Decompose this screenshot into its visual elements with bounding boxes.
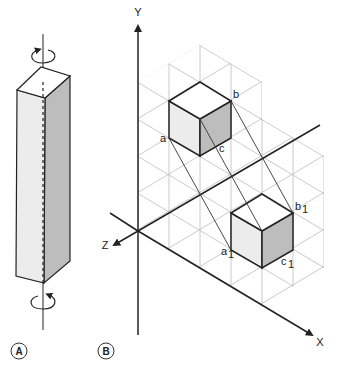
figure-canvas: A bbox=[0, 0, 338, 367]
point-b1-label: b bbox=[295, 200, 301, 212]
point-c1-subscript: 1 bbox=[288, 258, 294, 270]
point-a1-label: a bbox=[221, 245, 228, 257]
point-c-label: c bbox=[219, 142, 225, 154]
prism-front-face bbox=[16, 90, 45, 283]
point-c1-label: c bbox=[281, 255, 287, 267]
point-b-label: b bbox=[233, 88, 239, 100]
prism-right-face bbox=[44, 76, 70, 283]
point-a-label: a bbox=[160, 132, 167, 144]
point-a1-subscript: 1 bbox=[228, 248, 234, 260]
panel-b-label: B bbox=[102, 346, 109, 357]
z-axis-label: Z bbox=[102, 239, 109, 251]
x-axis-label: X bbox=[316, 336, 324, 348]
panel-a-label: A bbox=[15, 346, 22, 357]
panel-a: A bbox=[11, 34, 70, 359]
z-axis-back bbox=[110, 213, 138, 231]
point-b1-subscript: 1 bbox=[302, 203, 308, 215]
y-axis-label: Y bbox=[134, 6, 142, 18]
